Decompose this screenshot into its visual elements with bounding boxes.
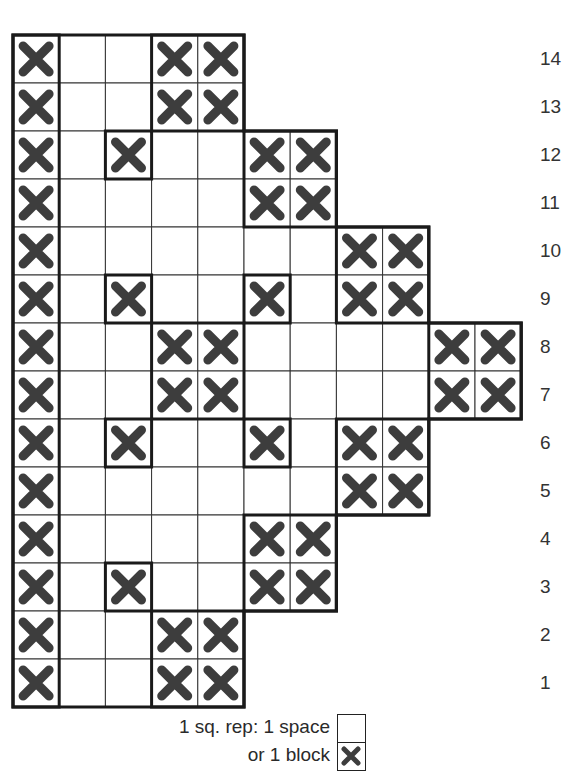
space-cell [59, 419, 105, 467]
space-cell [152, 419, 198, 467]
space-cell [383, 323, 429, 371]
space-cell [198, 419, 244, 467]
block-cell [13, 179, 59, 227]
block-cell [198, 371, 244, 419]
block-cell [13, 515, 59, 563]
block-cell [13, 275, 59, 323]
space-cell [105, 83, 151, 131]
block-cell [244, 563, 290, 611]
row-number-13: 13 [540, 83, 580, 131]
space-cell [59, 131, 105, 179]
space-cell [152, 275, 198, 323]
block-cell [383, 419, 429, 467]
space-cell [198, 275, 244, 323]
space-cell [105, 611, 151, 659]
space-cell [198, 131, 244, 179]
space-cell [105, 467, 151, 515]
cross-icon [338, 743, 364, 769]
legend-block-swatch [337, 742, 366, 771]
legend-block-label: or 1 block [248, 744, 330, 766]
space-cell [59, 467, 105, 515]
space-cell [105, 323, 151, 371]
block-cell [13, 227, 59, 275]
space-cell [383, 371, 429, 419]
space-cell [290, 227, 336, 275]
row-number-14: 14 [540, 35, 580, 83]
block-cell [105, 131, 151, 179]
block-cell [198, 83, 244, 131]
space-cell [59, 275, 105, 323]
block-cell [198, 659, 244, 707]
block-cell [13, 35, 59, 83]
space-cell [152, 131, 198, 179]
space-cell [59, 563, 105, 611]
space-cell [198, 563, 244, 611]
space-cell [105, 179, 151, 227]
block-cell [336, 227, 382, 275]
space-cell [105, 371, 151, 419]
block-cell [244, 515, 290, 563]
space-cell [105, 35, 151, 83]
block-cell [198, 35, 244, 83]
legend-space-label: 1 sq. rep: 1 space [179, 716, 330, 738]
space-cell [290, 275, 336, 323]
block-cell [429, 323, 475, 371]
space-cell [59, 659, 105, 707]
row-number-12: 12 [540, 131, 580, 179]
block-cell [13, 419, 59, 467]
block-cell [244, 419, 290, 467]
space-cell [198, 467, 244, 515]
block-cell [152, 371, 198, 419]
block-cell [13, 611, 59, 659]
row-number-7: 7 [540, 371, 580, 419]
block-cell [383, 275, 429, 323]
space-cell [59, 83, 105, 131]
row-number-3: 3 [540, 563, 580, 611]
row-number-4: 4 [540, 515, 580, 563]
space-cell [290, 371, 336, 419]
block-cell [105, 563, 151, 611]
space-cell [336, 323, 382, 371]
space-cell [105, 515, 151, 563]
row-number-2: 2 [540, 611, 580, 659]
block-cell [13, 323, 59, 371]
row-number-10: 10 [540, 227, 580, 275]
block-cell [290, 563, 336, 611]
space-cell [59, 323, 105, 371]
space-cell [59, 371, 105, 419]
space-cell [152, 179, 198, 227]
space-cell [244, 371, 290, 419]
space-cell [59, 611, 105, 659]
block-cell [244, 131, 290, 179]
row-number-1: 1 [540, 659, 580, 707]
block-cell [152, 35, 198, 83]
space-cell [244, 467, 290, 515]
space-cell [244, 323, 290, 371]
block-cell [13, 467, 59, 515]
block-cell [152, 659, 198, 707]
block-cell [105, 275, 151, 323]
block-cell [198, 323, 244, 371]
block-cell [244, 179, 290, 227]
block-cell [290, 131, 336, 179]
block-cell [383, 227, 429, 275]
space-cell [105, 659, 151, 707]
row-number-11: 11 [540, 179, 580, 227]
block-cell [152, 611, 198, 659]
space-cell [198, 515, 244, 563]
block-cell [13, 563, 59, 611]
space-cell [198, 227, 244, 275]
space-cell [105, 227, 151, 275]
space-cell [152, 563, 198, 611]
space-cell [290, 467, 336, 515]
block-cell [13, 83, 59, 131]
block-cell [383, 467, 429, 515]
space-cell [59, 515, 105, 563]
block-cell [13, 131, 59, 179]
space-cell [59, 179, 105, 227]
row-number-9: 9 [540, 275, 580, 323]
space-cell [59, 227, 105, 275]
block-cell [336, 275, 382, 323]
space-cell [152, 467, 198, 515]
